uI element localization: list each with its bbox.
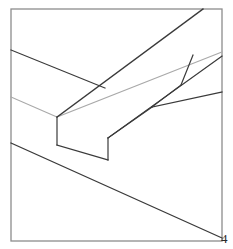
drawing-background xyxy=(0,0,233,249)
figure-container: 4 xyxy=(0,0,233,249)
line-drawing-canvas xyxy=(0,0,233,249)
figure-number-label: 4 xyxy=(221,232,228,245)
